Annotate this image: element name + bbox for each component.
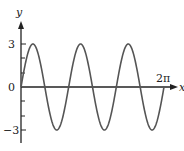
y-tick-label-min: −3: [3, 124, 19, 137]
y-axis-label: y: [15, 6, 23, 19]
x-axis-label: x: [179, 81, 184, 94]
sine-chart: y x 3 0 −3 2π: [0, 0, 184, 151]
x-tick-label-2pi: 2π: [156, 72, 170, 85]
y-axis-arrow-icon: [18, 21, 24, 29]
x-axis-arrow-icon: [170, 84, 178, 90]
origin-label: 0: [8, 81, 15, 94]
y-tick-label-max: 3: [8, 38, 15, 51]
